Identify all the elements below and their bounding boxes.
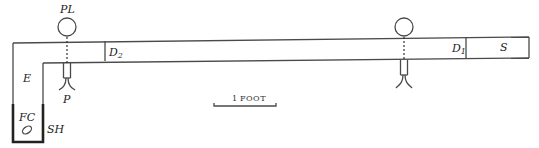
scale-number: 1 [232, 94, 238, 103]
flare-left [59, 78, 66, 90]
duct-diagram: PL E FC SH P D2 D1 S 1 FOOT [0, 0, 539, 148]
label-s: S [500, 41, 508, 54]
scale-unit: FOOT [240, 94, 266, 103]
label-d2-main: D [108, 46, 118, 59]
label-d2-sub: 2 [117, 51, 123, 60]
flare-right [68, 78, 75, 90]
pl-circle [58, 18, 76, 36]
right-flare-right [405, 75, 412, 88]
right-flare-left [396, 75, 403, 88]
label-d2: D2 [108, 46, 123, 60]
figure-right [395, 18, 413, 88]
figure-left [58, 18, 76, 90]
scale-bar [214, 103, 276, 106]
label-pl: PL [59, 3, 75, 16]
label-d1-sub: 1 [461, 47, 466, 56]
label-d1-main: D [451, 42, 461, 55]
right-circle [395, 18, 413, 36]
fc-ellipse [21, 125, 33, 136]
label-p: P [62, 93, 71, 106]
label-fc: FC [18, 111, 36, 124]
label-d1: D1 [451, 42, 466, 56]
label-e: E [22, 72, 31, 85]
label-sh: SH [47, 123, 65, 136]
